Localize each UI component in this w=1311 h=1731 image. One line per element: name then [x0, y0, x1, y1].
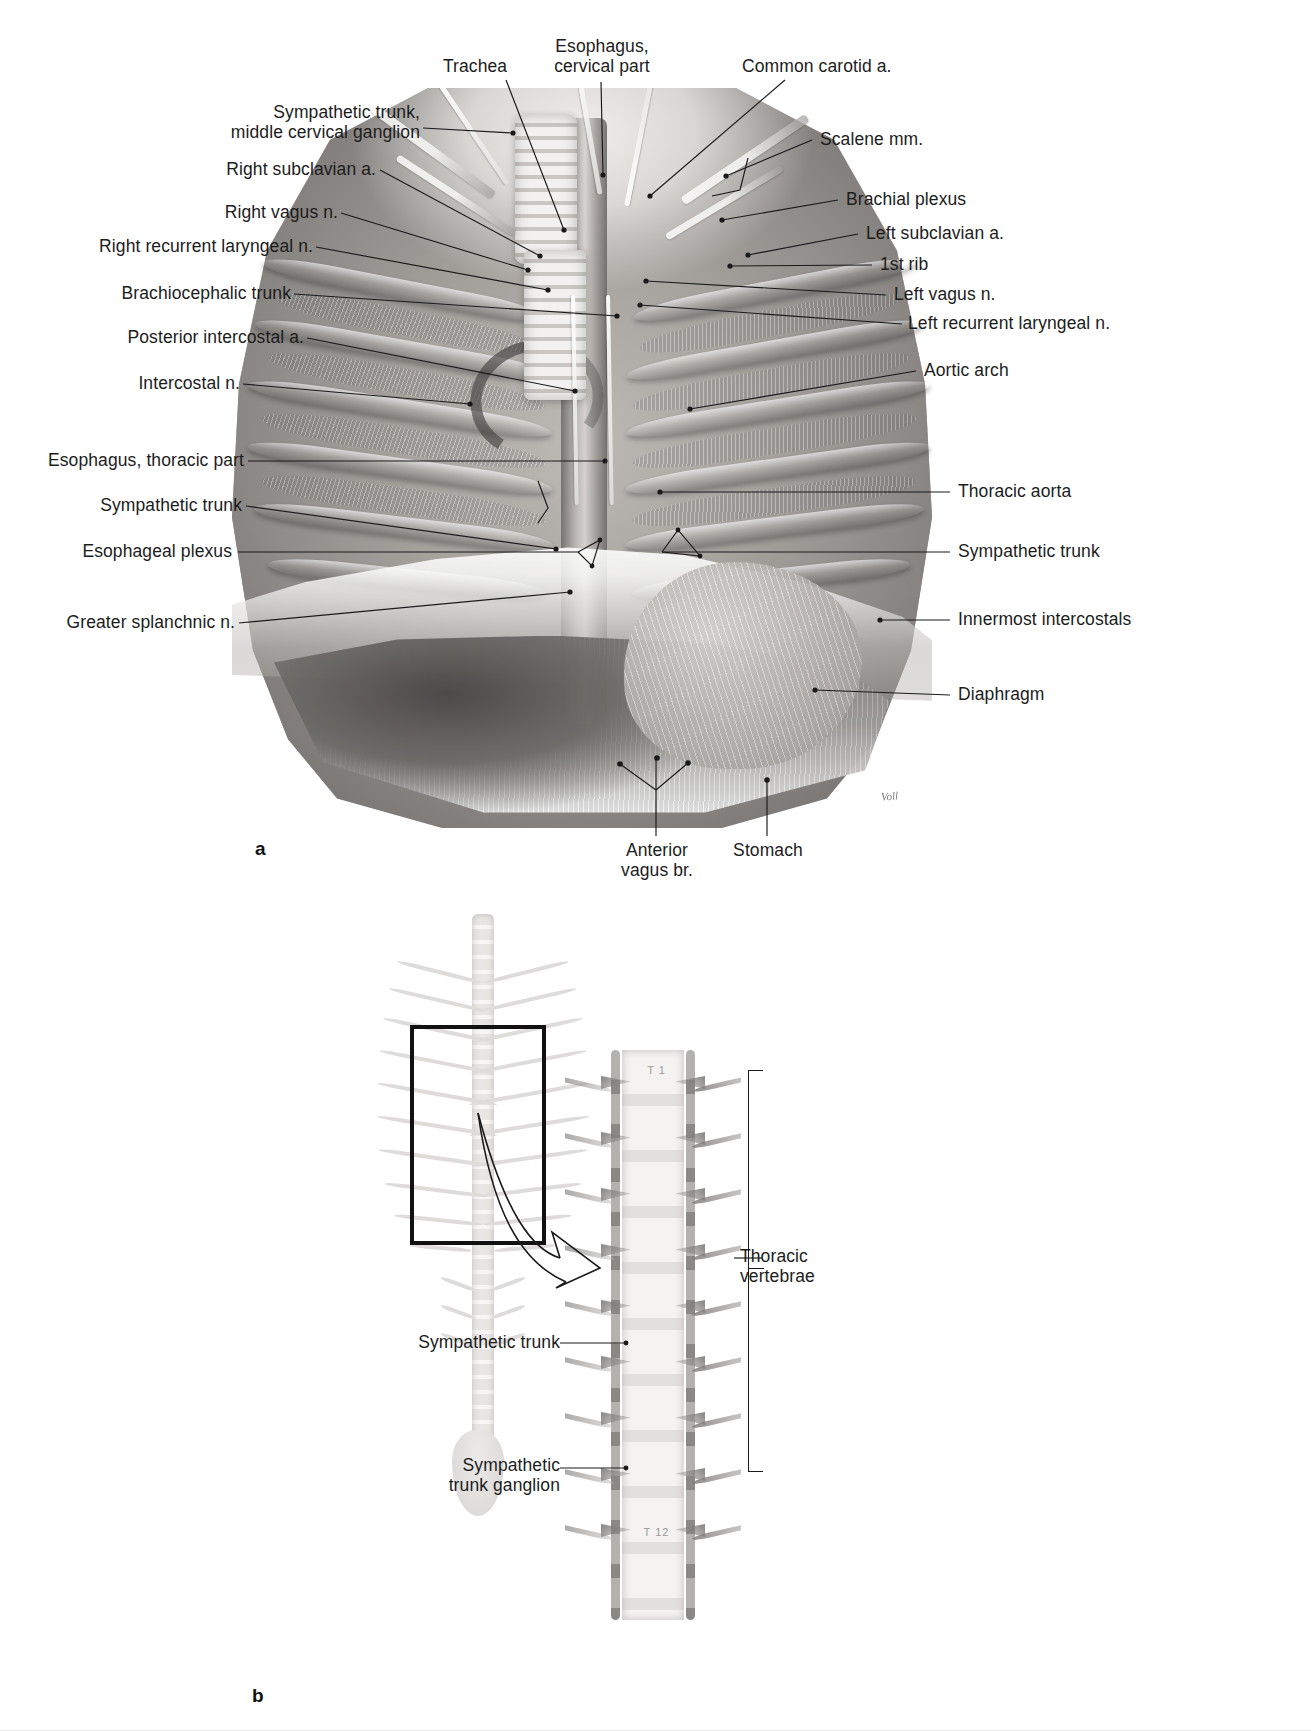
label-intercostal-n: Intercostal n.: [90, 373, 240, 393]
figure-b-illustration: T 1 T 12: [0, 900, 1311, 1660]
lumbar-process: [440, 1276, 475, 1292]
rib-overview: [485, 960, 569, 985]
label-trachea: Trachea: [420, 56, 530, 76]
trachea-shape: [515, 114, 577, 264]
lumbar-process: [490, 1276, 525, 1292]
label-sympathetic-trunk-middle-cervical-ganglion: Sympathetic trunk, middle cervical gangl…: [60, 102, 420, 142]
label-stomach: Stomach: [712, 840, 824, 860]
label-anterior-vagus-br: Anterior vagus br.: [598, 840, 716, 880]
label-sympathetic-trunk-left: Sympathetic trunk: [60, 495, 242, 515]
figure-a-illustration: Voll: [232, 88, 932, 828]
region-of-interest-box: [410, 1025, 546, 1245]
rib-overview: [397, 960, 481, 985]
label-scalene-mm: Scalene mm.: [820, 129, 1020, 149]
lumbar-process: [490, 1304, 525, 1320]
esophagus-cervical-shape: [524, 250, 586, 400]
label-right-vagus-n: Right vagus n.: [80, 202, 338, 222]
label-thoracic-vertebrae: Thoracic vertebrae: [740, 1246, 920, 1286]
label-sympathetic-trunk-b: Sympathetic trunk: [380, 1332, 560, 1352]
label-esophagus-cervical-part: Esophagus, cervical part: [532, 36, 672, 76]
label-right-recurrent-laryngeal-n: Right recurrent laryngeal n.: [50, 236, 313, 256]
label-sympathetic-trunk-ganglion: Sympathetic trunk ganglion: [380, 1455, 560, 1495]
label-diaphragm: Diaphragm: [958, 684, 1158, 704]
label-left-subclavian-a: Left subclavian a.: [866, 223, 1086, 243]
label-aortic-arch: Aortic arch: [924, 360, 1124, 380]
magnified-thoracic-column: T 1 T 12: [565, 1050, 741, 1620]
label-left-recurrent-laryngeal-n: Left recurrent laryngeal n.: [908, 313, 1168, 333]
label-esophagus-thoracic-part: Esophagus, thoracic part: [20, 450, 244, 470]
label-brachial-plexus: Brachial plexus: [846, 189, 1066, 209]
label-esophageal-plexus: Esophageal plexus: [50, 541, 232, 561]
lumbar-process: [440, 1304, 475, 1320]
label-brachiocephalic-trunk: Brachiocephalic trunk: [60, 283, 291, 303]
label-right-subclavian-a: Right subclavian a.: [80, 159, 376, 179]
vertebra-marker-t1: T 1: [647, 1064, 666, 1076]
label-posterior-intercostal-a: Posterior intercostal a.: [50, 327, 304, 347]
label-left-vagus-n: Left vagus n.: [894, 284, 1094, 304]
panel-letter-a: a: [255, 838, 266, 860]
panel-letter-b: b: [252, 1685, 264, 1707]
vertebra-marker-t12: T 12: [644, 1526, 670, 1538]
label-innermost-intercostals: Innermost intercostals: [958, 609, 1218, 629]
label-common-carotid-a: Common carotid a.: [742, 56, 962, 76]
label-sympathetic-trunk-right: Sympathetic trunk: [958, 541, 1178, 561]
anatomy-plate-page: Voll: [0, 0, 1311, 1731]
label-greater-splanchnic-n: Greater splanchnic n.: [30, 612, 235, 632]
label-thoracic-aorta: Thoracic aorta: [958, 481, 1178, 501]
label-1st-rib: 1st rib: [880, 254, 1040, 274]
artist-signature: Voll: [880, 789, 898, 802]
